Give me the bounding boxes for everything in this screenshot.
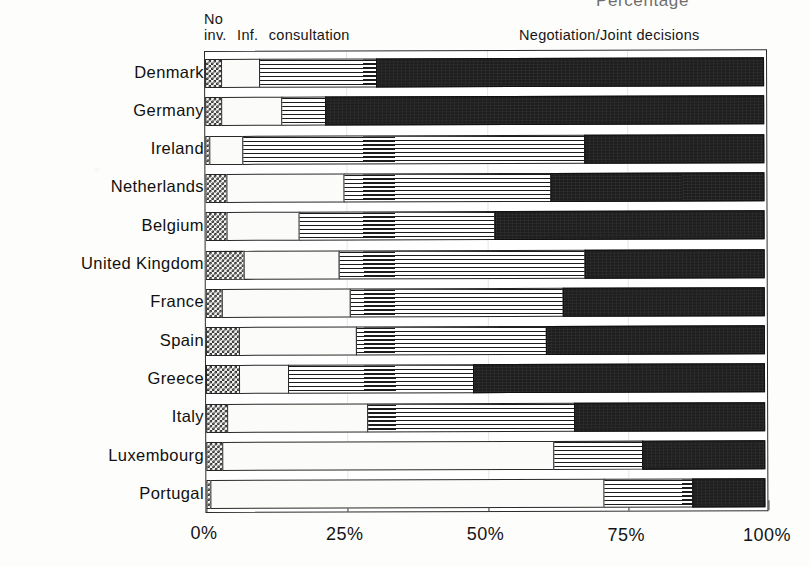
y-axis-label-belgium: Belgium xyxy=(0,216,204,235)
stacked-bar[interactable] xyxy=(206,479,769,510)
bar-row xyxy=(205,134,766,165)
bar-segment-consultation[interactable] xyxy=(553,441,643,470)
y-axis-label-denmark: Denmark xyxy=(0,63,204,82)
bar-segment-no_involvement[interactable] xyxy=(206,442,223,471)
bar-row xyxy=(206,287,767,318)
bar-row xyxy=(206,249,767,280)
stacked-bar[interactable] xyxy=(206,402,769,433)
y-axis-label-italy: Italy xyxy=(0,407,204,426)
y-axis-label-luxembourg: Luxembourg xyxy=(0,446,204,465)
bar-segment-information[interactable] xyxy=(244,250,340,279)
bar-segment-information[interactable] xyxy=(227,212,300,241)
bar-segment-negotiation_joint_decisions[interactable] xyxy=(376,57,765,87)
bar-row xyxy=(205,172,766,203)
stacked-bar[interactable] xyxy=(206,287,769,318)
plot-area xyxy=(204,49,768,513)
bar-segment-negotiation_joint_decisions[interactable] xyxy=(325,96,764,126)
bar-segment-no_involvement[interactable] xyxy=(205,174,228,203)
bar-segment-negotiation_joint_decisions[interactable] xyxy=(585,134,765,164)
legend-item-negotiation: Negotiation/Joint decisions xyxy=(519,27,700,43)
x-axis-label-75: 75% xyxy=(607,525,645,546)
bar-segment-consultation[interactable] xyxy=(338,249,586,279)
stacked-bar[interactable] xyxy=(205,134,768,165)
bar-segment-consultation[interactable] xyxy=(288,365,474,395)
bar-segment-no_involvement[interactable] xyxy=(205,97,222,126)
bar-segment-consultation[interactable] xyxy=(299,211,496,241)
x-axis-label-50: 50% xyxy=(467,524,505,545)
bar-row xyxy=(206,325,767,356)
bar-row xyxy=(206,479,767,510)
stacked-bar[interactable] xyxy=(206,364,769,395)
bar-segment-information[interactable] xyxy=(221,97,283,126)
x-axis-label-100: 100% xyxy=(743,525,791,546)
bar-segment-negotiation_joint_decisions[interactable] xyxy=(574,402,765,432)
bar-row xyxy=(206,210,767,241)
bar-segment-no_involvement[interactable] xyxy=(206,250,245,279)
bar-segment-consultation[interactable] xyxy=(344,173,552,203)
stacked-bar[interactable] xyxy=(206,249,769,280)
bar-row xyxy=(205,96,766,127)
bar-segment-no_involvement[interactable] xyxy=(206,327,240,356)
bar-segment-consultation[interactable] xyxy=(282,97,327,126)
stacked-bar[interactable] xyxy=(206,440,769,471)
bar-segment-information[interactable] xyxy=(210,135,244,164)
bar-segment-information[interactable] xyxy=(239,365,290,394)
chart-canvas: Percentage No inv. Inf. consultation Neg… xyxy=(0,0,809,566)
x-axis-label-25: 25% xyxy=(326,524,364,545)
legend-item-information: Inf. xyxy=(237,27,258,43)
bar-segment-consultation[interactable] xyxy=(242,134,586,164)
y-axis-label-spain: Spain xyxy=(0,331,204,350)
bar-row xyxy=(206,402,767,433)
bar-segment-negotiation_joint_decisions[interactable] xyxy=(642,440,766,469)
stacked-bar[interactable] xyxy=(205,57,768,88)
x-axis-label-0: 0% xyxy=(190,523,217,544)
bar-segment-information[interactable] xyxy=(238,327,356,356)
bar-segment-information[interactable] xyxy=(227,403,368,432)
bar-row xyxy=(205,57,766,88)
bar-segment-negotiation_joint_decisions[interactable] xyxy=(495,210,765,240)
bar-segment-consultation[interactable] xyxy=(355,326,546,356)
bar-segment-no_involvement[interactable] xyxy=(206,365,240,394)
bar-segment-negotiation_joint_decisions[interactable] xyxy=(551,172,765,202)
stacked-bar[interactable] xyxy=(206,210,769,241)
bar-segment-negotiation_joint_decisions[interactable] xyxy=(693,479,766,508)
bar-segment-no_involvement[interactable] xyxy=(206,212,229,241)
legend-item-no-involvement: inv. xyxy=(204,27,227,43)
legend-left: No inv. Inf. consultation xyxy=(204,11,356,43)
legend-item-consultation: consultation xyxy=(269,27,350,43)
bar-segment-no_involvement[interactable] xyxy=(206,404,229,433)
stacked-bar[interactable] xyxy=(205,172,768,203)
bar-segment-negotiation_joint_decisions[interactable] xyxy=(585,249,765,279)
bar-segment-information[interactable] xyxy=(221,59,260,88)
y-axis-label-greece: Greece xyxy=(0,369,204,388)
bar-segment-negotiation_joint_decisions[interactable] xyxy=(473,364,766,394)
bar-segment-no_involvement[interactable] xyxy=(205,59,222,88)
bar-segment-no_involvement[interactable] xyxy=(206,289,223,318)
chart-title-clipped: Percentage xyxy=(596,0,689,11)
stacked-bar[interactable] xyxy=(206,325,769,356)
y-axis-label-netherlands: Netherlands xyxy=(0,177,204,196)
bar-segment-consultation[interactable] xyxy=(350,288,564,318)
bar-row xyxy=(206,364,767,395)
bar-segment-information[interactable] xyxy=(211,479,605,509)
bar-segment-information[interactable] xyxy=(222,441,554,471)
y-axis-label-germany: Germany xyxy=(0,101,204,120)
y-axis-label-france: France xyxy=(0,292,204,311)
bar-segment-consultation[interactable] xyxy=(604,479,694,508)
y-axis-label-ireland: Ireland xyxy=(0,139,204,158)
bar-segment-negotiation_joint_decisions[interactable] xyxy=(562,287,765,317)
bar-segment-information[interactable] xyxy=(221,288,351,317)
y-axis-label-portugal: Portugal xyxy=(0,484,204,503)
bar-segment-negotiation_joint_decisions[interactable] xyxy=(546,325,766,355)
bar-row xyxy=(206,440,767,471)
bar-segment-consultation[interactable] xyxy=(367,403,575,433)
bar-segment-consultation[interactable] xyxy=(259,58,377,87)
stacked-bar[interactable] xyxy=(205,96,768,127)
y-axis-label-united-kingdom: United Kingdom xyxy=(0,254,204,273)
legend-left-line1: No xyxy=(204,11,356,27)
bar-segment-information[interactable] xyxy=(227,173,345,202)
